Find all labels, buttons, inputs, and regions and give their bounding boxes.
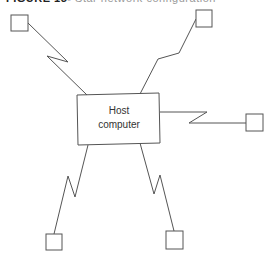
terminal-top-right xyxy=(196,10,212,27)
host-label-line2: computer xyxy=(78,118,160,132)
link-bottom-left xyxy=(54,145,88,234)
link-right xyxy=(160,112,246,123)
link-bottom-right xyxy=(140,143,174,231)
terminal-right xyxy=(246,114,263,131)
host-computer-label: Host computer xyxy=(78,104,160,132)
host-label-line1: Host xyxy=(78,104,160,118)
terminal-top-left xyxy=(11,15,28,31)
link-top-right xyxy=(140,19,196,94)
terminal-bottom-right xyxy=(166,231,183,249)
link-top-left xyxy=(28,23,87,95)
terminal-bottom-left xyxy=(46,234,62,250)
